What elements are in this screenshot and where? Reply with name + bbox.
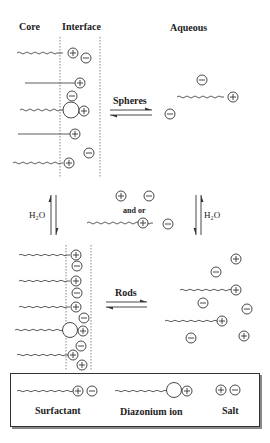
cation-head-icon <box>182 386 192 396</box>
legend-surfactant-label: Surfactant <box>35 405 81 416</box>
surfactant-molecule <box>165 316 227 326</box>
and-or-label: and or <box>123 206 145 215</box>
core-header: Core <box>19 21 40 32</box>
hydrocarbon-tail <box>17 52 63 54</box>
surfactant-molecule <box>17 350 78 360</box>
legend-symbols <box>11 374 259 426</box>
anion-icon <box>211 267 221 277</box>
surfactant-molecule <box>13 158 74 168</box>
surfactant-molecule <box>19 302 81 312</box>
anion-icon <box>186 333 196 343</box>
anion-icon <box>76 341 86 351</box>
anion-icon <box>163 219 173 229</box>
anion-icon <box>72 261 82 271</box>
cation-head-icon <box>64 158 74 168</box>
diazonium-head-icon <box>63 323 78 338</box>
anion-icon <box>67 91 77 101</box>
cation-icon <box>231 254 241 264</box>
legend-surfactant-symbol <box>17 386 97 396</box>
anion-icon <box>198 298 208 308</box>
diazonium-ion <box>15 323 88 338</box>
surfactant-molecule <box>177 92 238 102</box>
top-aqueous-region <box>165 75 238 119</box>
surfactant-molecule <box>87 218 153 228</box>
cation-head-icon <box>71 276 81 286</box>
hydrocarbon-tail <box>20 109 64 111</box>
hydrocarbon-tail <box>19 254 70 256</box>
hydrocarbon-tail <box>17 354 69 356</box>
anion-icon <box>87 386 97 396</box>
diazonium-head-icon <box>63 102 79 118</box>
surfactant-molecule <box>17 48 78 58</box>
hydrocarbon-tail <box>177 96 224 98</box>
rods-label: Rods <box>115 287 137 298</box>
cation-head-icon <box>75 78 85 88</box>
cation-head-icon <box>138 218 148 228</box>
surfactant-molecule <box>19 276 81 286</box>
cation-icon <box>116 191 126 201</box>
cation-head-icon <box>71 302 81 312</box>
interface-header: Interface <box>62 21 101 32</box>
aqueous-header: Aqueous <box>170 22 207 33</box>
left-h2o-label: H₂O <box>29 210 45 220</box>
hydrocarbon-tail <box>115 390 169 392</box>
hydrocarbon-tail <box>15 329 67 331</box>
cation-head-icon <box>228 92 238 102</box>
anion-icon <box>242 304 252 314</box>
hydrocarbon-tail <box>180 289 234 291</box>
cation-head-icon <box>68 48 78 58</box>
cation-head-icon <box>70 129 80 139</box>
legend-diazonium-symbol <box>115 383 192 398</box>
diazonium-ion <box>20 102 89 118</box>
cation-icon <box>77 360 87 370</box>
cation-head-icon <box>217 316 227 326</box>
spheres-equilibrium-arrow <box>110 108 152 118</box>
surfactant-molecule <box>19 250 81 260</box>
left-h2o-equilibrium-arrow <box>49 195 59 235</box>
legend: Surfactant Diazonium ion Salt <box>10 373 260 427</box>
right-h2o-label: H₂O <box>204 210 220 220</box>
surfactant-molecule <box>25 78 85 88</box>
spheres-label: Spheres <box>113 95 147 106</box>
anion-icon <box>230 385 240 395</box>
legend-diazonium-label: Diazonium ion <box>120 406 183 417</box>
anion-icon <box>79 313 89 323</box>
hydrocarbon-tail <box>13 162 63 164</box>
anion-icon <box>81 53 91 63</box>
anion-icon <box>197 75 207 85</box>
cation-icon <box>239 331 249 341</box>
bottom-aqueous-region <box>165 254 252 343</box>
rods-equilibrium-arrow <box>106 300 147 310</box>
surfactant-molecule <box>180 285 241 295</box>
cation-head-icon <box>78 326 88 336</box>
diazonium-head-icon <box>167 383 182 398</box>
top-interface-region <box>13 37 100 177</box>
hydrocarbon-tail <box>19 306 70 308</box>
cation-head-icon <box>73 386 83 396</box>
cation-head-icon <box>68 350 78 360</box>
anion-icon <box>165 109 175 119</box>
hydrocarbon-tail <box>19 280 70 282</box>
bottom-interface-region <box>15 245 91 370</box>
legend-salt-label: Salt <box>222 405 239 416</box>
cation-head-icon <box>71 250 81 260</box>
anion-icon <box>72 288 82 298</box>
cation-head-icon <box>231 285 241 295</box>
cation-icon <box>216 385 226 395</box>
anion-icon <box>144 191 154 201</box>
surfactant-molecule <box>18 129 80 139</box>
right-h2o-equilibrium-arrow <box>194 195 204 235</box>
legend-salt-symbol <box>216 385 240 395</box>
cation-head-icon <box>79 106 89 116</box>
anion-icon <box>84 148 94 158</box>
